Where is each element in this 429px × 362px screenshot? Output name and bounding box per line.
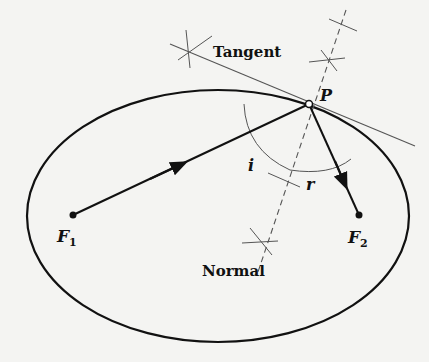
focus2-point xyxy=(356,212,363,219)
reflected-ray xyxy=(309,104,359,215)
normal-construction-mark-top xyxy=(329,19,357,31)
focus1-subscript: 1 xyxy=(69,236,77,249)
incident-ray-arrow xyxy=(150,165,180,179)
tangent-line xyxy=(170,44,415,146)
incident-ray xyxy=(73,104,309,215)
incidence-angle-label: i xyxy=(248,156,254,175)
focus2-subscript: 2 xyxy=(360,237,368,250)
tangent-label: Tangent xyxy=(213,43,281,61)
focus1-point xyxy=(70,212,77,219)
normal-construction-mark-bottom xyxy=(242,228,278,255)
point-p xyxy=(306,101,313,108)
ellipse-reflection-diagram: Tangent Normal P i r F1 F2 xyxy=(0,0,429,362)
normal-construction-mark-middle xyxy=(268,173,300,187)
point-p-label: P xyxy=(319,86,333,105)
normal-label: Normal xyxy=(202,262,265,280)
focus2-label: F2 xyxy=(347,227,368,250)
reflection-angle-label: r xyxy=(306,175,316,194)
ellipse-curve xyxy=(27,90,409,342)
focus1-label: F1 xyxy=(56,226,77,249)
